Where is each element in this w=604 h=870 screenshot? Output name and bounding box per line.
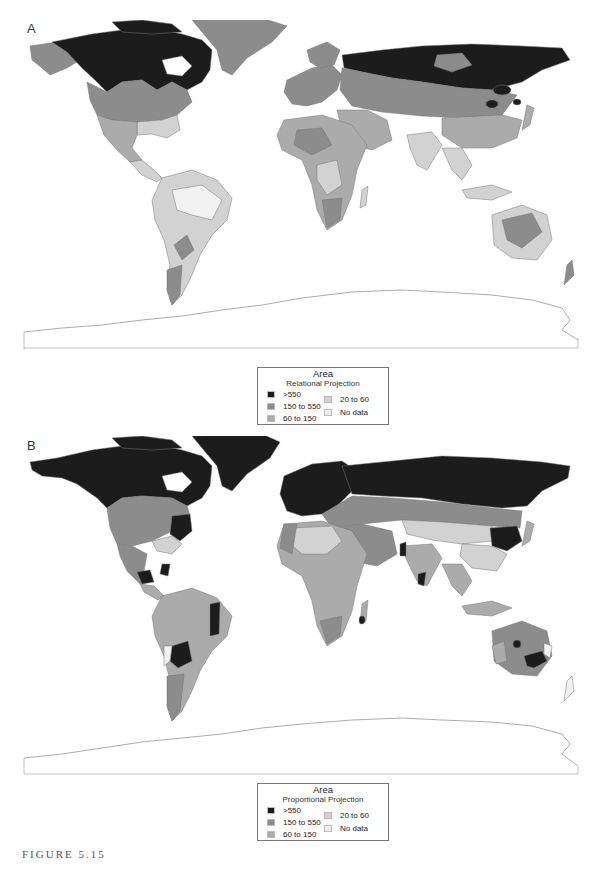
legend-item-60-150: 60 to 150 xyxy=(267,413,316,424)
legend-item-20-60: 20 to 60 xyxy=(324,394,369,405)
legend-subtitle: Relational Projection xyxy=(258,379,388,388)
legend-label: 150 to 550 xyxy=(283,818,321,827)
world-map-a xyxy=(22,20,580,350)
figure-caption: FIGURE 5.15 xyxy=(22,848,106,860)
legend-title: Area xyxy=(258,785,388,795)
legend-swatch xyxy=(267,391,275,398)
legend-item-no-data: No data xyxy=(324,407,368,418)
legend-item-20-60: 20 to 60 xyxy=(324,810,369,821)
legend-swatch xyxy=(324,825,332,832)
map-panel-a xyxy=(22,20,580,350)
world-map-b xyxy=(22,436,580,776)
legend-swatch xyxy=(324,409,332,416)
legend-item-gt550: >550 xyxy=(267,805,301,816)
legend-swatch xyxy=(267,819,275,826)
legend-label: 60 to 150 xyxy=(283,414,316,423)
legend-swatch xyxy=(324,396,332,403)
legend-label: 20 to 60 xyxy=(340,811,369,820)
legend-item-60-150: 60 to 150 xyxy=(267,829,316,840)
legend-swatch xyxy=(267,415,275,422)
legend-item-gt550: >550 xyxy=(267,389,301,400)
legend-panel-a: Area Relational Projection >550 150 to 5… xyxy=(257,367,389,425)
legend-panel-b: Area Proportional Projection >550 150 to… xyxy=(257,783,389,841)
legend-title: Area xyxy=(258,369,388,379)
legend-swatch xyxy=(267,831,275,838)
legend-label: 150 to 550 xyxy=(283,402,321,411)
legend-item-150-550: 150 to 550 xyxy=(267,401,321,412)
legend-item-no-data: No data xyxy=(324,823,368,834)
map-panel-b xyxy=(22,436,580,776)
legend-label: No data xyxy=(340,408,368,417)
legend-label: 20 to 60 xyxy=(340,395,369,404)
legend-swatch xyxy=(267,807,275,814)
legend-label: >550 xyxy=(283,806,301,815)
legend-subtitle: Proportional Projection xyxy=(258,795,388,804)
legend-label: >550 xyxy=(283,390,301,399)
legend-label: 60 to 150 xyxy=(283,830,316,839)
legend-swatch xyxy=(324,812,332,819)
legend-item-150-550: 150 to 550 xyxy=(267,817,321,828)
legend-swatch xyxy=(267,403,275,410)
legend-label: No data xyxy=(340,824,368,833)
